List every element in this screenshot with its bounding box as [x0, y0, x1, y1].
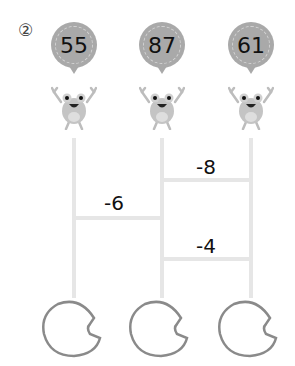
column-left: 55 [51, 22, 97, 74]
rung-label-lower: -4 [196, 236, 216, 256]
column-right: 61 [228, 22, 274, 74]
frog-icon [228, 84, 274, 130]
rung-label-upper: -8 [196, 157, 216, 177]
lily-pad-answer-right[interactable] [216, 298, 280, 360]
number-bubble: 87 [139, 22, 185, 68]
lily-pad-answer-middle[interactable] [127, 298, 191, 360]
start-value: 55 [60, 33, 88, 58]
ladder-line-right [249, 138, 253, 298]
ladder-rung-middle [72, 216, 164, 220]
start-value: 61 [237, 33, 265, 58]
number-bubble: 55 [51, 22, 97, 68]
column-middle: 87 [139, 22, 185, 74]
frog-icon [51, 84, 97, 130]
problem-number: ② [18, 22, 33, 39]
lily-pad-answer-left[interactable] [40, 298, 104, 360]
rung-label-middle: -6 [104, 193, 124, 213]
frog-icon [139, 84, 185, 130]
number-bubble: 61 [228, 22, 274, 68]
start-value: 87 [148, 33, 176, 58]
